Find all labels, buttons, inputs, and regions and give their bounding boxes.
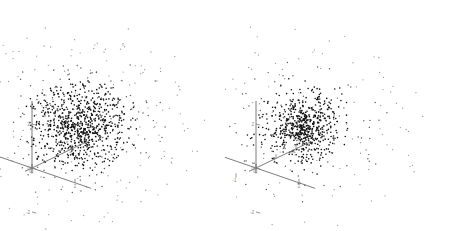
scatter-point [294,163,295,164]
scatter-point [49,103,50,104]
scatter-point [302,102,304,104]
figure-canvas: -20202-202 -202-1012-202 [0,0,451,231]
scatter-point [89,175,90,176]
scatter-point [386,112,387,113]
scatter-point [406,129,407,130]
scatter-point [298,175,299,176]
scatter-point [61,104,63,106]
scatter-point [40,131,42,133]
scatter-point [26,106,28,108]
scatter-point [75,145,77,147]
scatter-point [334,189,335,190]
scatter-point [79,115,81,117]
scatter-point [422,116,423,117]
scatter-point [415,92,416,93]
scatter-point [302,201,303,202]
scatter-point [69,94,71,96]
scatter-point [120,117,122,119]
scatter-point [110,121,112,123]
scatter-point [110,118,111,119]
scatter-point [98,96,100,98]
scatter-point [80,67,81,68]
scatter-point [369,120,370,121]
scatter-point [248,67,249,68]
scatter-point [319,98,320,99]
scatter-point [54,115,56,117]
scatter-point [299,131,301,133]
scatter-point [136,118,137,119]
scatter-point [334,138,336,140]
scatter-point [337,137,339,139]
scatter-point [319,157,321,159]
scatter-point [248,105,249,106]
scatter-point [67,157,69,159]
scatter-point [392,149,393,150]
scatter-point [289,122,291,124]
scatter-point [138,111,139,112]
scatter-point [54,122,56,124]
scatter-point [117,137,119,139]
scatter-point [88,142,90,144]
scatter-point [82,158,84,160]
left-points-layer [0,27,205,229]
scatter-point [292,99,294,101]
scatter-point [114,153,116,155]
left-plot-svg: -20202-202 [0,0,226,231]
scatter-point [67,69,68,70]
scatter-point [320,128,322,130]
scatter-point [266,189,267,190]
scatter-point [46,153,48,155]
scatter-point [44,113,46,115]
scatter-point [286,93,288,95]
scatter-point [39,142,41,144]
scatter-point [105,130,107,132]
scatter-point [314,49,315,50]
scatter-point [322,112,324,114]
scatter-point [43,107,45,109]
scatter-point [85,85,87,87]
scatter-point [67,108,69,110]
scatter-point [74,39,75,40]
scatter-point [73,109,74,110]
scatter-point [276,128,278,130]
z-tick-label: -2 [250,210,255,215]
scatter-point [92,146,94,148]
scatter-point [77,158,78,159]
scatter-point [319,116,321,118]
scatter-point [77,134,79,136]
scatter-point [74,133,76,135]
scatter-point [91,90,93,92]
scatter-point [101,86,103,88]
scatter-point [299,102,301,104]
scatter-point [164,151,165,152]
scatter-point [283,113,285,115]
scatter-point [59,115,61,117]
scatter-point [153,120,154,121]
z-tick-label: 0 [251,166,254,171]
scatter-point [112,108,114,110]
scatter-point [312,106,313,107]
scatter-point [76,129,78,131]
scatter-point [305,101,307,103]
scatter-point [317,127,319,129]
scatter-point [57,110,59,112]
scatter-point [126,151,127,152]
scatter-point [326,148,328,150]
scatter-point [41,138,43,140]
scatter-point [280,85,281,86]
scatter-point [107,158,109,160]
scatter-point [73,86,74,87]
scatter-point [101,150,102,151]
scatter-point [320,154,322,156]
scatter-point [104,116,106,118]
scatter-point [317,99,319,101]
scatter-point [63,104,64,105]
scatter-point [314,149,316,151]
scatter-point [95,182,96,183]
scatter-point [319,94,321,96]
scatter-point [114,147,116,149]
scatter-point [53,148,55,150]
scatter-point [108,165,110,167]
scatter-point [110,132,112,134]
scatter-point [312,172,313,173]
